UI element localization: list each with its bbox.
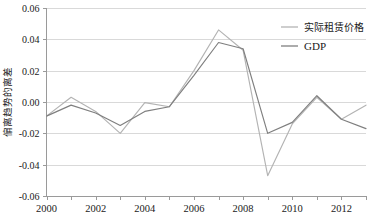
y-tick-label: -0.02 bbox=[19, 128, 40, 139]
y-axis-tick-labels: 0.060.040.020.00-0.02-0.04-0.06 bbox=[19, 3, 40, 202]
x-tick-label: 2004 bbox=[134, 203, 156, 214]
chart-canvas: 0.060.040.020.00-0.02-0.04-0.06 20002002… bbox=[0, 0, 369, 222]
x-tick-label: 2006 bbox=[183, 203, 204, 214]
legend-label-gdp: GDP bbox=[304, 40, 326, 52]
line-chart-figure: 0.060.040.020.00-0.02-0.04-0.06 20002002… bbox=[0, 0, 369, 222]
x-tick-label: 2002 bbox=[85, 203, 106, 214]
y-tick-label: 0.00 bbox=[22, 97, 40, 108]
legend-label-rental-price: 实际租赁价格 bbox=[304, 21, 364, 33]
y-tick-label: 0.04 bbox=[22, 34, 40, 45]
x-tick-label: 2000 bbox=[36, 203, 57, 214]
chart-legend: 实际租赁价格GDP bbox=[281, 21, 364, 52]
gridlines bbox=[47, 9, 367, 197]
y-axis-ticks bbox=[43, 9, 47, 197]
y-tick-label: 0.02 bbox=[22, 66, 40, 77]
x-tick-label: 2010 bbox=[282, 203, 303, 214]
y-tick-label: -0.04 bbox=[19, 160, 40, 171]
y-tick-label: 0.06 bbox=[22, 3, 40, 14]
y-axis-title: 偏离趋势的离差 bbox=[2, 67, 13, 137]
x-axis-tick-labels: 2000200220042006200820102012 bbox=[36, 203, 352, 214]
series-line-gdp bbox=[47, 42, 367, 133]
y-axis-title-text: 偏离趋势的离差 bbox=[2, 67, 13, 137]
x-tick-label: 2008 bbox=[233, 203, 254, 214]
x-tick-label: 2012 bbox=[331, 203, 352, 214]
y-tick-label: -0.06 bbox=[19, 191, 40, 202]
